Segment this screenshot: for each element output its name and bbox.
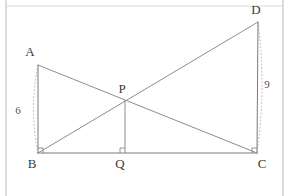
- geometry-figure-canvas: A B C D P Q 6 9: [0, 0, 293, 196]
- vertex-label-q: Q: [115, 156, 125, 171]
- geometry-figure-root: A B C D P Q 6 9: [0, 0, 293, 196]
- vertex-label-d: D: [251, 2, 260, 17]
- figure-background: [0, 0, 293, 196]
- length-label-ab: 6: [15, 104, 21, 116]
- vertex-label-a: A: [25, 44, 35, 59]
- vertex-label-p: P: [118, 81, 125, 96]
- length-label-dc: 9: [264, 78, 270, 90]
- vertex-label-b: B: [28, 156, 37, 171]
- vertex-label-c: C: [258, 156, 267, 171]
